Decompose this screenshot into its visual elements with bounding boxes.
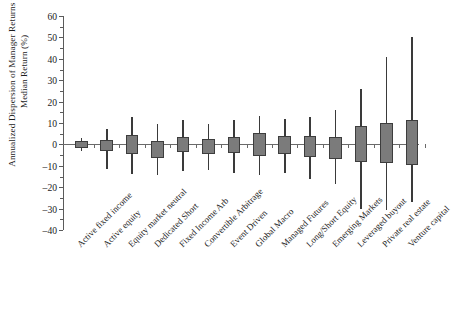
y-tick-label-10: 10 [47,118,57,129]
x-axis-tick [297,144,298,148]
y-tick--40 [59,230,64,231]
x-axis-tick [374,144,375,148]
x-axis-tick [348,144,349,148]
box-rect [355,126,368,161]
y-tick-60 [59,16,64,17]
box-plot-item [355,16,368,230]
box-plot-item [380,16,393,230]
y-tick--30 [59,209,64,210]
y-tick-10 [59,123,64,124]
y-minor-tick-5 [60,134,63,135]
y-minor-tick--5 [60,155,63,156]
x-axis-tick [272,144,273,148]
y-tick-label-50: 50 [47,32,57,43]
x-axis-tick [94,144,95,148]
y-minor-tick-35 [60,70,63,71]
box-plot-item [75,16,88,230]
box-plot-item [253,16,266,230]
y-axis-label: Annualized Dispersion of Manager Returns… [7,0,30,182]
y-tick-label--20: –20 [43,182,57,193]
y-tick-40 [59,59,64,60]
box-rect [329,137,342,159]
x-axis-tick [399,144,400,148]
y-minor-tick--15 [60,177,63,178]
box-rect [126,135,139,154]
box-rect [228,137,241,153]
y-tick-50 [59,37,64,38]
y-tick-label-20: 20 [47,96,57,107]
box-plot-item [329,16,342,230]
box-plot-item [177,16,190,230]
x-axis-tick [425,144,426,148]
box-plot-item [100,16,113,230]
box-rect [151,141,164,158]
box-rect [304,136,317,157]
y-minor-tick--35 [60,219,63,220]
plot-area: 6050403020100–10–20–30–40 [63,16,419,230]
box-rect [278,136,291,154]
x-axis-tick [119,144,120,148]
box-rect [380,123,393,163]
x-axis-tick [323,144,324,148]
y-tick--20 [59,187,64,188]
y-tick-label-0: 0 [52,139,57,150]
box-plot-item [202,16,215,230]
y-tick-label-30: 30 [47,75,57,86]
y-tick-label-60: 60 [47,11,57,22]
box-plot-item [228,16,241,230]
y-tick-label--40: –40 [43,225,57,236]
box-plot-item [278,16,291,230]
x-axis-tick [247,144,248,148]
box-rect [177,137,190,152]
x-axis-tick [196,144,197,148]
y-minor-tick-45 [60,48,63,49]
y-axis-line [63,16,64,230]
y-tick--10 [59,166,64,167]
box-rect [202,139,215,154]
box-plot-item [151,16,164,230]
y-minor-tick-15 [60,112,63,113]
box-rect [406,120,419,165]
y-minor-tick-55 [60,27,63,28]
y-tick-label-40: 40 [47,53,57,64]
box-rect [100,140,113,152]
y-tick-label--10: –10 [43,160,57,171]
box-plot-item [304,16,317,230]
x-axis-tick [145,144,146,148]
x-axis-tick [221,144,222,148]
box-rect [75,141,88,148]
x-axis-tick [170,144,171,148]
y-tick-20 [59,102,64,103]
y-tick-30 [59,80,64,81]
y-minor-tick--25 [60,198,63,199]
y-tick-label--30: –30 [43,203,57,214]
y-minor-tick-25 [60,91,63,92]
box-plot-item [406,16,419,230]
box-plot-item [126,16,139,230]
box-rect [253,133,266,157]
